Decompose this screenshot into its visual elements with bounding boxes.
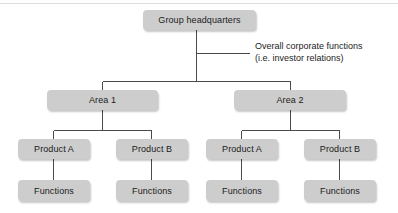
org-chart-figure: Group headquarters Overall corporate fun… [0,0,398,213]
node-label: Product A [222,144,262,154]
node-area2-product-a[interactable]: Product A [206,139,278,159]
node-area2-product-b-functions[interactable]: Functions [304,180,376,201]
node-label: Area 2 [276,95,303,105]
node-area-1[interactable]: Area 1 [47,90,158,110]
node-area2-product-b[interactable]: Product B [304,139,376,159]
node-area1-product-a-functions[interactable]: Functions [18,180,90,201]
annotation-line-2: (i.e. investor relations) [255,52,363,64]
node-area1-product-b[interactable]: Product B [116,139,188,159]
node-label: Product A [34,144,74,154]
node-label: Functions [34,186,74,196]
node-area-2[interactable]: Area 2 [234,90,346,110]
annotation-line-1: Overall corporate functions [255,40,363,52]
node-group-headquarters[interactable]: Group headquarters [143,10,256,30]
node-area1-product-b-functions[interactable]: Functions [116,180,188,201]
node-label: Product B [132,144,172,154]
node-label: Functions [222,186,262,196]
node-area1-product-a[interactable]: Product A [18,139,90,159]
node-label: Product B [320,144,360,154]
node-area2-product-a-functions[interactable]: Functions [206,180,278,201]
node-label: Group headquarters [158,15,240,25]
node-label: Functions [132,186,172,196]
node-label: Area 1 [89,95,116,105]
annotation-corporate-functions: Overall corporate functions (i.e. invest… [255,40,363,64]
node-label: Functions [320,186,360,196]
